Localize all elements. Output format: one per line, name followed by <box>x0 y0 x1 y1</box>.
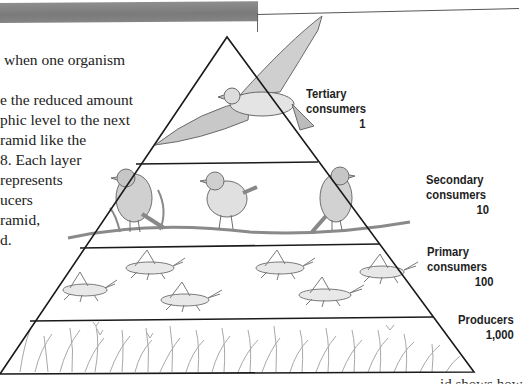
level-label-tertiary: Tertiary consumers 1 <box>306 87 365 132</box>
hawk-illustration <box>155 16 322 145</box>
grass-illustration <box>20 322 460 372</box>
level-name-line2: consumers <box>427 260 487 274</box>
level-name-line1: Secondary <box>426 173 484 187</box>
level-name-line1: Tertiary <box>306 87 346 101</box>
level-name-line2: consumers <box>426 188 486 202</box>
level-name-line2: consumers <box>306 102 366 116</box>
level-value: 10 <box>426 203 489 218</box>
divider-primary-producers <box>30 317 433 321</box>
grasshoppers-illustration <box>63 250 418 312</box>
level-label-producers: Producers 1,000 <box>458 313 514 343</box>
divider-tertiary-secondary <box>136 162 318 164</box>
level-value: 1 <box>306 117 365 132</box>
level-name-line1: Primary <box>427 245 469 259</box>
level-label-secondary: Secondary consumers 10 <box>426 173 489 218</box>
level-label-primary: Primary consumers 100 <box>427 245 494 290</box>
sparrows-illustration <box>68 167 410 238</box>
level-value: 100 <box>427 275 494 290</box>
level-name-line1: Producers <box>458 313 514 327</box>
divider-secondary-primary <box>80 244 380 248</box>
level-value: 1,000 <box>458 328 514 343</box>
